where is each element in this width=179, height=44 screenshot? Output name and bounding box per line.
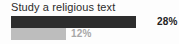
chart-title: Study a religious text xyxy=(11,1,115,14)
bar-chart-card: Study a religious text 28% 12% xyxy=(0,0,179,44)
bar-series-2 xyxy=(11,28,66,40)
bar-value-series-2: 12% xyxy=(71,27,92,40)
chart-plot-area: 28% 12% xyxy=(0,16,179,41)
bar-value-series-1: 28% xyxy=(157,15,178,28)
